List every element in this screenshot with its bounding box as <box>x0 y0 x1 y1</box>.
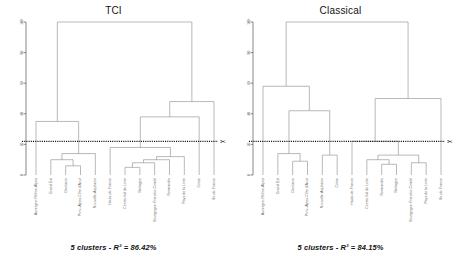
leaf-label: Hauts-de-France <box>108 178 112 205</box>
dendrogram-link <box>170 102 214 175</box>
dendrogram-link <box>382 164 397 175</box>
leaf-label: Corse <box>197 178 201 188</box>
dendrogram-plot-tci: 020406080100✂Auvergne-Rhône-AlpesGrand E… <box>0 0 227 260</box>
dendrogram-link <box>375 99 441 176</box>
scissors-icon: ✂ <box>220 138 226 145</box>
leaf-label: Occitanie <box>64 178 68 193</box>
axis-tick-label: 100 <box>20 19 24 25</box>
leaf-label: Hauts-de-France <box>350 178 354 205</box>
dendrogram-link <box>125 167 140 175</box>
dendrogram-link <box>66 166 81 175</box>
axis-tick-label: 60 <box>247 81 251 85</box>
dendrogram-figure: TCI 020406080100✂Auvergne-Rhône-AlpesGra… <box>0 0 454 260</box>
leaf-label: Bretagne <box>394 178 398 193</box>
dendrogram-link <box>367 160 389 175</box>
dendrogram-link <box>263 86 309 175</box>
dendrogram-link <box>293 161 308 175</box>
leaf-label: Centre-Val de Loire <box>123 178 127 209</box>
leaf-label: Bretagne <box>138 178 142 193</box>
axis-tick-label: 0 <box>247 174 251 176</box>
panel-tci: TCI 020406080100✂Auvergne-Rhône-AlpesGra… <box>0 0 227 260</box>
leaf-label: Prov.-Alpes-Côte d'Azur <box>305 177 309 216</box>
dendrogram-link <box>378 155 419 163</box>
leaf-label: Normandie <box>380 178 384 196</box>
leaf-label: Pays de la Loire <box>182 178 186 204</box>
axis-tick-label: 60 <box>20 81 24 85</box>
panel-caption-classical: 5 clusters - R² = 84.15% <box>227 243 454 252</box>
dendrogram-link <box>278 154 300 175</box>
leaf-label: Corse <box>335 178 339 188</box>
dendrogram-link <box>352 141 398 175</box>
axis-tick-label: 40 <box>20 112 24 116</box>
panel-classical: Classical 020406080100✂Auvergne-Rhône-Al… <box>227 0 454 260</box>
dendrogram-link <box>322 155 337 175</box>
leaf-label: Île-de-France <box>439 178 443 200</box>
leaf-label: Centre-Val de Loire <box>365 178 369 209</box>
leaf-label: Bourgogne-Franche-Comté <box>153 178 157 222</box>
dendrogram-link <box>110 147 170 175</box>
leaf-label: Nouvelle-Aquitaine <box>320 178 324 208</box>
leaf-label: Occitanie <box>291 178 295 193</box>
leaf-label: Île-de-France <box>212 178 216 200</box>
leaf-label: Prov.-Alpes-Côte d'Azur <box>78 177 82 216</box>
axis-tick-label: 80 <box>20 51 24 55</box>
dendrogram-link <box>289 111 330 155</box>
leaf-label: Auvergne-Rhône-Alpes <box>261 178 265 216</box>
leaf-label: Normandie <box>167 178 171 196</box>
scissors-icon: ✂ <box>447 138 453 145</box>
dendrogram-link <box>286 22 408 99</box>
leaf-label: Grand Est <box>49 178 53 194</box>
leaf-label: Grand Est <box>276 178 280 194</box>
axis-tick-label: 20 <box>20 142 24 146</box>
dendrogram-link <box>57 22 192 121</box>
dendrogram-link <box>132 163 154 175</box>
dendrogram-link <box>62 154 95 175</box>
leaf-label: Auvergne-Rhône-Alpes <box>34 178 38 216</box>
dendrogram-link <box>144 160 170 175</box>
leaf-label: Bourgogne-Franche-Comté <box>409 178 413 222</box>
dendrogram-plot-classical: 020406080100✂Auvergne-Rhône-AlpesGrand E… <box>227 0 454 260</box>
axis-tick-label: 20 <box>247 142 251 146</box>
dendrogram-link <box>51 160 73 175</box>
dendrogram-link <box>411 163 426 175</box>
leaf-label: Pays de la Loire <box>424 178 428 204</box>
leaf-label: Nouvelle-Aquitaine <box>93 178 97 208</box>
dendrogram-link <box>36 121 79 175</box>
axis-tick-label: 80 <box>247 51 251 55</box>
axis-tick-label: 40 <box>247 112 251 116</box>
panel-caption-tci: 5 clusters - R² = 86.42% <box>0 243 227 252</box>
axis-tick-label: 0 <box>20 174 24 176</box>
dendrogram-link <box>157 157 185 175</box>
axis-tick-label: 100 <box>247 19 251 25</box>
